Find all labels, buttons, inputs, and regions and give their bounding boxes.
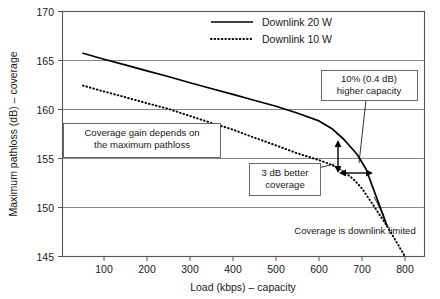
annotation-better-coverage-line2: coverage xyxy=(265,179,304,190)
x-tick-label-700: 700 xyxy=(353,263,371,275)
y-axis-title: Maximum pathloss (dB) – coverage xyxy=(7,51,19,216)
annotation-better-coverage-line1: 3 dB better xyxy=(262,167,310,178)
x-tick-label-800: 800 xyxy=(396,263,414,275)
y-tick-label-150: 150 xyxy=(36,202,54,214)
x-tick-label-600: 600 xyxy=(310,263,328,275)
legend-label-downlink-20w: Downlink 20 W xyxy=(262,16,332,28)
y-tick-label-155: 155 xyxy=(36,153,54,165)
annotation-higher-capacity-line1: 10% (0.4 dB) xyxy=(341,73,397,84)
x-tick-label-300: 300 xyxy=(181,263,199,275)
y-tick-label-145: 145 xyxy=(36,251,54,263)
x-tick-label-400: 400 xyxy=(224,263,242,275)
y-tick-label-165: 165 xyxy=(36,55,54,67)
annotation-coverage-gain-line1: Coverage gain depends on xyxy=(84,127,199,138)
legend-label-downlink-10w: Downlink 10 W xyxy=(262,33,332,45)
pathloss-vs-load-chart: 170 165 160 155 150 145 100 200 300 400 … xyxy=(0,0,440,299)
x-tick-label-100: 100 xyxy=(95,263,113,275)
x-axis-title: Load (kbps) – capacity xyxy=(190,281,296,293)
annotation-downlink-limited-text: Coverage is downlink limited xyxy=(294,225,416,236)
x-tick-label-200: 200 xyxy=(138,263,156,275)
y-tick-label-170: 170 xyxy=(36,6,54,18)
y-tick-label-160: 160 xyxy=(36,104,54,116)
annotation-coverage-gain-line2: the maximum pathloss xyxy=(94,139,190,150)
annotation-coverage-gain: Coverage gain depends on the maximum pat… xyxy=(64,124,221,158)
x-tick-label-500: 500 xyxy=(267,263,285,275)
annotation-higher-capacity-line2: higher capacity xyxy=(337,85,402,96)
chart-figure: 170 165 160 155 150 145 100 200 300 400 … xyxy=(0,0,440,299)
